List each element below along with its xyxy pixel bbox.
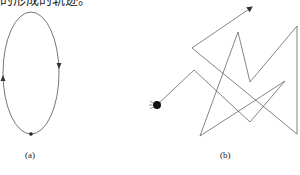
figure-a-label: (a)	[25, 150, 35, 160]
figure-b-label: (b)	[220, 150, 231, 160]
diagram-canvas	[0, 0, 300, 175]
point-mass-dot	[29, 132, 33, 136]
ellipse-path	[3, 12, 59, 134]
figure-a-ellipse-orbit	[1, 12, 62, 136]
zigzag-trajectory	[157, 7, 297, 136]
down-arrow-icon	[57, 63, 62, 69]
particle-icon	[149, 101, 161, 109]
figure-b-random-walk	[149, 7, 297, 136]
up-arrow-icon	[1, 75, 6, 81]
